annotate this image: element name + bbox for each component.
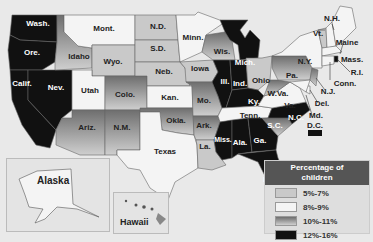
hawaii-label: Hawaii [120,217,149,227]
label-kan: Kan. [161,93,178,102]
label-maine: Maine [336,38,359,47]
label-ark: Ark. [196,121,212,130]
label-wis: Wis. [214,47,230,56]
label-nm: N.M. [114,123,131,132]
label-minn: Minn. [183,33,204,42]
label-pa: Pa. [286,71,298,80]
label-va: Va. [284,101,296,110]
state-nm[interactable] [105,110,140,155]
label-neb: Neb. [155,67,172,76]
state-conn[interactable] [322,56,334,66]
label-ore: Ore. [24,48,40,57]
label-iowa: Iowa [191,64,209,73]
label-colo: Colo. [115,90,135,99]
label-miss: Miss. [214,136,232,143]
label-tenn: Tenn. [240,111,261,120]
label-md: Md. [309,111,323,120]
legend-swatch [275,230,297,240]
hawaii-shape [114,193,168,233]
legend-label: 12%-16% [303,231,338,240]
label-vt: Vt. [313,29,323,38]
label-mass: Mass. [341,55,363,64]
label-del: Del. [315,99,330,108]
legend: Percentage of children 5%-7% 8%-9% 10%-1… [264,160,370,234]
label-ga: Ga. [254,136,267,145]
label-wyo: Wyo. [104,57,123,66]
label-ind: Ind. [233,79,247,88]
label-conn: Conn. [334,79,357,88]
state-mass[interactable] [322,46,342,56]
label-mo: Mo. [197,96,211,105]
label-ny: N.Y. [298,57,313,66]
label-calif: Calif. [12,79,32,88]
label-nj: N.J. [321,87,336,96]
label-nh: N.H. [324,14,340,23]
label-wva: W.Va. [268,89,289,98]
legend-title: Percentage of children [265,161,369,185]
legend-item-5-7: 5%-7% [275,187,369,199]
label-la: La. [199,142,211,151]
alaska-label: Alaska [37,175,69,186]
state-ri[interactable] [334,56,338,62]
label-ky: Ky. [248,97,260,106]
legend-title-line1: Percentage of [265,163,369,173]
label-idaho: Idaho [68,52,89,61]
label-okla: Okla. [166,116,186,125]
label-ohio: Ohio [252,76,270,85]
label-nev: Nev. [48,83,64,92]
legend-label: 8%-9% [303,203,329,212]
label-texas: Texas [154,147,177,156]
legend-swatch [275,216,297,226]
alaska-inset: Alaska [6,158,110,232]
state-dc[interactable] [308,130,322,136]
label-nd: N.D. [150,22,166,31]
label-dc: D.C. [307,121,323,130]
legend-label: 5%-7% [303,189,329,198]
legend-swatch [275,202,297,212]
legend-item-12-16: 12%-16% [275,229,369,241]
label-ariz: Ariz. [78,123,95,132]
label-nc: N.C. [288,113,304,122]
label-ill: Ill. [221,77,230,86]
legend-title-line2: children [265,173,369,183]
alaska-shape [7,159,109,231]
label-ri: R.I. [351,68,363,77]
label-sc: S.C. [267,121,283,130]
label-sd: S.D. [150,44,166,53]
label-mich: Mich. [235,58,255,67]
legend-item-8-9: 8%-9% [275,201,369,213]
legend-label: 10%-11% [303,217,337,226]
label-wash: Wash. [26,19,49,28]
label-utah: Utah [81,86,99,95]
label-mont: Mont. [93,24,114,33]
legend-item-10-11: 10%-11% [275,215,369,227]
label-ala: Ala. [233,138,248,147]
hawaii-inset: Hawaii [113,192,169,234]
legend-swatch [275,188,297,198]
